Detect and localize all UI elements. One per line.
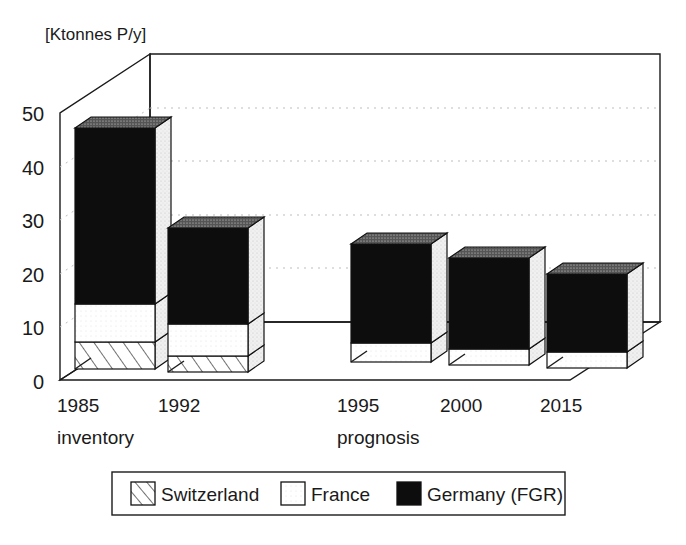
bar-2000-germany-front[interactable] xyxy=(449,258,529,349)
bar-1992-france-front[interactable] xyxy=(168,324,248,356)
bar-1995-france-front[interactable] xyxy=(351,343,431,362)
group-caption-inventory: inventory xyxy=(57,427,135,448)
phosphorus-stacked-3d-bar-chart: [Ktonnes P/y] 50 40 30 xyxy=(0,0,686,545)
bar-1992-germany-front[interactable] xyxy=(168,228,248,324)
y-tick-0: 0 xyxy=(33,371,44,393)
bar-1985-france-front[interactable] xyxy=(75,304,155,342)
bar-group-2015[interactable] xyxy=(547,263,643,368)
x-label-1985: 1985 xyxy=(57,395,99,416)
y-tick-20: 20 xyxy=(22,264,44,286)
x-label-1992: 1992 xyxy=(158,395,200,416)
bar-2015-top-cap xyxy=(547,263,643,274)
bar-1995-top-cap xyxy=(351,233,447,244)
chart-legend: Switzerland France Germany (FGR) xyxy=(112,472,565,515)
bar-group-1995[interactable] xyxy=(351,233,447,362)
x-label-2015: 2015 xyxy=(540,395,582,416)
x-axis-category-labels: 1985 1992 1995 2000 2015 xyxy=(57,395,582,416)
bar-1995-germany-front[interactable] xyxy=(351,244,431,343)
x-label-1995: 1995 xyxy=(337,395,379,416)
bar-1985-top-cap xyxy=(75,117,171,128)
legend-swatch-switzerland[interactable] xyxy=(131,482,155,505)
x-label-2000: 2000 xyxy=(440,395,482,416)
y-axis-tick-labels: 50 40 30 20 10 0 xyxy=(22,103,44,393)
bar-group-1992[interactable] xyxy=(168,217,264,372)
legend-label-france: France xyxy=(311,484,370,505)
bar-group-1985[interactable] xyxy=(75,117,171,369)
bar-1992-top-cap xyxy=(168,217,264,228)
legend-label-germany: Germany (FGR) xyxy=(427,484,563,505)
bar-1995-germany-side xyxy=(431,233,447,343)
bar-group-2000[interactable] xyxy=(449,247,545,365)
bar-2000-germany-side xyxy=(529,247,545,349)
bar-2015-germany-side xyxy=(627,263,643,352)
y-axis-unit-label: [Ktonnes P/y] xyxy=(45,25,146,44)
y-tick-50: 50 xyxy=(22,103,44,125)
y-tick-10: 10 xyxy=(22,317,44,339)
group-captions: inventory prognosis xyxy=(57,427,419,448)
bar-1992-germany-side xyxy=(248,217,264,324)
legend-swatch-france[interactable] xyxy=(281,482,305,505)
bar-1985-germany-front[interactable] xyxy=(75,128,155,304)
bar-2015-germany-front[interactable] xyxy=(547,274,627,352)
chart-container: [Ktonnes P/y] 50 40 30 xyxy=(0,0,686,545)
y-tick-30: 30 xyxy=(22,210,44,232)
y-tick-40: 40 xyxy=(22,157,44,179)
bar-1985-switzerland-front[interactable] xyxy=(75,342,155,369)
bar-2000-top-cap xyxy=(449,247,545,258)
legend-swatch-germany[interactable] xyxy=(397,482,421,505)
legend-label-switzerland: Switzerland xyxy=(161,484,259,505)
group-caption-prognosis: prognosis xyxy=(337,427,419,448)
